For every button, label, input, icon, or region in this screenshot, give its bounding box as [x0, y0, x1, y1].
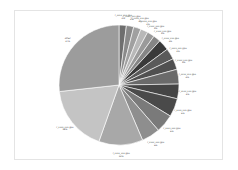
pie-chart: r_xxxx_xxx.gpu2%r_xxxx_xxx.gpu2%r_xxxx_x… [0, 0, 238, 170]
slice-percent: 3% [169, 40, 172, 43]
slice-percent: 3% [176, 50, 179, 53]
slice-percent: 4% [186, 76, 189, 79]
pie-slice [59, 25, 119, 92]
slice-percent: 18% [62, 128, 67, 131]
slice-percent: 5% [154, 144, 157, 147]
slice-percent: 12% [119, 155, 124, 158]
slice-percent: 5% [170, 130, 173, 133]
slice-percent: 4% [186, 93, 189, 96]
slice-percent: 27% [65, 40, 70, 43]
slice-percent: 3% [182, 61, 185, 64]
slice-percent: 5% [181, 112, 184, 115]
slice-percent: 2% [161, 32, 164, 35]
